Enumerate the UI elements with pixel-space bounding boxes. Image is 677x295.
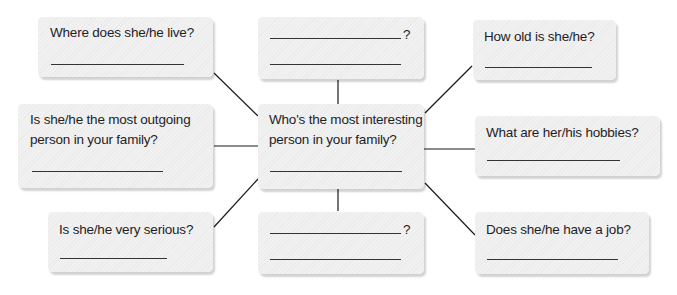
question-blank[interactable] <box>270 233 401 234</box>
node-question: Does she/he have a job? <box>486 220 631 239</box>
node-top-right: How old is she/he? <box>473 20 616 80</box>
answer-blank[interactable] <box>51 64 184 65</box>
center-question: Who's the most interesting <box>269 110 422 129</box>
question-blank[interactable] <box>270 38 401 39</box>
node-bottom-right: Does she/he have a job? <box>475 212 649 274</box>
question-mark: ? <box>403 220 410 239</box>
answer-blank[interactable] <box>270 64 401 65</box>
node-question: How old is she/he? <box>484 27 594 46</box>
connector-bottom-right <box>425 183 475 235</box>
answer-blank[interactable] <box>485 67 592 68</box>
answer-blank[interactable] <box>270 259 401 260</box>
node-mid-right: What are her/his hobbies? <box>475 116 660 176</box>
answer-blank[interactable] <box>32 171 163 172</box>
answer-blank[interactable] <box>487 160 620 161</box>
node-question: Where does she/he live? <box>50 23 194 42</box>
node-top-left: Where does she/he live? <box>38 17 213 77</box>
node-mid-left: Is she/he the most outgoing person in yo… <box>18 104 213 188</box>
answer-blank[interactable] <box>487 259 618 260</box>
connector-top-right <box>425 66 472 113</box>
center-question-line2: person in your family? <box>269 130 397 149</box>
question-mark: ? <box>403 25 410 44</box>
node-bottom-left: Is she/he very serious? <box>48 212 213 272</box>
node-question: What are her/his hobbies? <box>486 123 639 142</box>
answer-blank[interactable] <box>270 171 402 172</box>
node-question: Is she/he very serious? <box>59 220 193 239</box>
node-bottom-center: ? <box>258 212 424 274</box>
node-top-center: ? <box>258 17 424 79</box>
answer-blank[interactable] <box>60 258 167 259</box>
node-question: Is she/he the most outgoing <box>30 110 190 129</box>
node-question-line2: person in your family? <box>30 130 158 149</box>
connector-bottom-left <box>214 179 258 227</box>
connector-top-left <box>214 73 258 116</box>
center-node: Who's the most interesting person in you… <box>258 104 424 189</box>
